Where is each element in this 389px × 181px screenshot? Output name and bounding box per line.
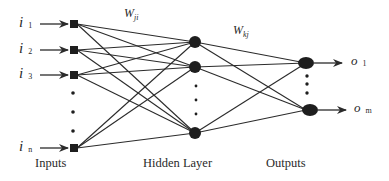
input-label-n: in — [19, 138, 32, 155]
input-label-3: i3 — [19, 65, 32, 82]
input-label-1: i1 — [19, 14, 32, 31]
hidden-node-last — [189, 127, 201, 139]
output-label-1: o1 — [351, 53, 367, 69]
output-ellipsis-dots — [305, 74, 308, 94]
input-arrows — [40, 24, 68, 148]
hidden-node-2 — [189, 61, 201, 73]
input-ellipsis-dots — [71, 91, 75, 133]
weight-label-input-hidden: Wji — [124, 6, 138, 21]
output-arrows — [314, 63, 346, 110]
hidden-nodes — [189, 36, 201, 139]
weight-label-hidden-output: Wkj — [233, 23, 249, 38]
caption-hidden-layer: Hidden Layer — [143, 156, 212, 171]
hidden-ellipsis-dots — [195, 85, 198, 116]
input-node-n — [70, 144, 78, 152]
neural-network-diagram — [0, 0, 389, 181]
input-node-1 — [70, 20, 78, 28]
input-node-2 — [70, 46, 78, 54]
output-node-m — [302, 104, 318, 116]
caption-inputs: Inputs — [35, 156, 66, 171]
hidden-node-1 — [189, 36, 201, 48]
output-node-1 — [298, 57, 314, 69]
input-label-2: i2 — [19, 40, 32, 57]
output-label-m: om — [354, 100, 372, 116]
caption-outputs: Outputs — [266, 156, 306, 171]
input-node-3 — [70, 71, 78, 79]
input-hidden-connections — [77, 24, 195, 148]
hidden-output-connections — [195, 42, 306, 133]
